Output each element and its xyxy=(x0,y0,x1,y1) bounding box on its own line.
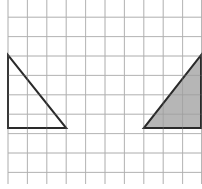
original-triangle xyxy=(8,55,66,128)
reflected-triangle xyxy=(144,55,201,128)
grid-diagram xyxy=(0,0,202,189)
